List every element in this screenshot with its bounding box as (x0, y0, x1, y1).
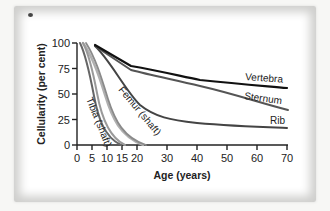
x-tick-0: 0 (74, 152, 80, 164)
y-tick-25: 25 (58, 114, 70, 126)
x-tick-15: 15 (116, 152, 128, 164)
x-axis-title: Age (years) (153, 169, 210, 181)
x-tick-70: 70 (281, 152, 293, 164)
y-tick-50: 50 (58, 88, 70, 100)
label-rib: Rib (270, 115, 285, 126)
x-tick-40: 40 (191, 152, 203, 164)
x-tick-20: 20 (131, 152, 143, 164)
y-axis-title: Cellularity (per cent) (35, 43, 47, 145)
y-tick-100: 100 (52, 37, 70, 49)
y-tick-labels: 100 75 50 25 0 (52, 37, 70, 151)
chart-svg: 100 75 50 25 0 0 5 10 15 20 30 40 50 60 … (0, 0, 330, 211)
label-vertebra: Vertebra (245, 71, 284, 85)
x-tick-50: 50 (221, 152, 233, 164)
y-tick-75: 75 (58, 63, 70, 75)
x-tick-10: 10 (101, 152, 113, 164)
x-tick-60: 60 (251, 152, 263, 164)
x-tick-5: 5 (89, 152, 95, 164)
x-tick-labels: 0 5 10 15 20 30 40 50 60 70 (74, 152, 293, 164)
x-tick-30: 30 (161, 152, 173, 164)
y-axis (72, 43, 77, 145)
y-tick-0: 0 (64, 139, 70, 151)
